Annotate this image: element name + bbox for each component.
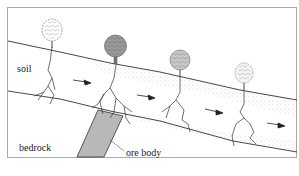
bedrock-label: bedrock — [19, 142, 51, 153]
soil-ore-diagram: soil bedrock ore body — [0, 0, 299, 176]
ore-body-label: ore body — [126, 147, 161, 158]
soil-label: soil — [17, 63, 32, 74]
